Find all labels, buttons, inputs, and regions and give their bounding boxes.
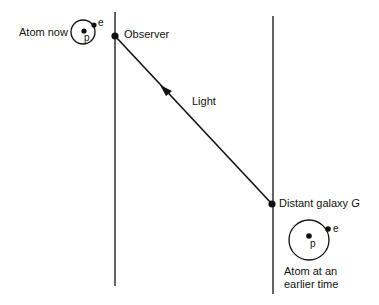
electron-label-earlier: e (333, 222, 339, 235)
galaxy-dot (268, 200, 275, 207)
atom-earlier-label-line2: earlier time (284, 278, 338, 291)
observer-label: Observer (124, 28, 169, 41)
atom-earlier-label-line1: Atom at an (284, 265, 337, 278)
observer-dot (111, 32, 118, 39)
light-ray (115, 36, 272, 204)
galaxy-symbol: G (351, 197, 360, 209)
diagram-canvas (0, 0, 379, 305)
electron-label-now: e (98, 16, 104, 29)
proton-label-now: p (84, 31, 90, 44)
light-label: Light (192, 95, 216, 108)
distant-galaxy-label: Distant galaxy G (279, 197, 360, 210)
proton-label-earlier: p (310, 237, 316, 250)
atom-now-label: Atom now (19, 26, 68, 39)
